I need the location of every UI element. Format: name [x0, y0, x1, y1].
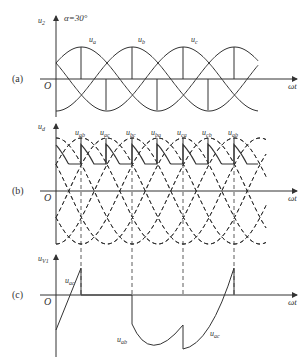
svg-text:u2: u2 [38, 16, 45, 26]
origin-c: O [44, 296, 51, 307]
svg-text:ubc: ubc [126, 128, 136, 138]
panel-c [40, 255, 297, 357]
origin-a: O [44, 80, 51, 91]
svg-text:uca: uca [177, 128, 187, 138]
vertical-guide-lines [81, 164, 234, 295]
svg-text:uab: uab [228, 128, 238, 138]
thyristor-voltage-uv1 [56, 268, 234, 349]
curve-labels: u2uduV1uaubucuabuacubcubaucaucbuabuacuab… [38, 16, 238, 345]
svg-text:uac: uac [65, 276, 75, 286]
svg-text:ud: ud [38, 122, 46, 132]
panel-a [40, 16, 297, 117]
panel-b [40, 124, 297, 244]
svg-text:uba: uba [151, 128, 161, 138]
svg-text:uab: uab [117, 335, 127, 345]
x-label-b: ωt [288, 193, 297, 203]
svg-text:uV1: uV1 [38, 254, 49, 264]
panel-a-tag: (a) [12, 73, 23, 85]
svg-text:ub: ub [138, 35, 145, 45]
panel-c-tag: (c) [12, 289, 23, 301]
svg-text:uab: uab [75, 128, 85, 138]
x-label-a: ωt [288, 81, 297, 91]
waveform-figure: (a) (b) (c) O O O ωt ωt ωt α=30° u2uduV1… [0, 0, 308, 363]
svg-text:ucb: ucb [202, 128, 212, 138]
svg-text:uac: uac [100, 128, 110, 138]
svg-text:ua: ua [89, 35, 96, 45]
panel-b-tag: (b) [12, 185, 24, 197]
x-label-c: ωt [288, 297, 297, 307]
alpha-label: α=30° [64, 13, 88, 23]
svg-text:uc: uc [191, 35, 198, 45]
svg-text:uac: uac [210, 329, 220, 339]
origin-b: O [44, 192, 51, 203]
